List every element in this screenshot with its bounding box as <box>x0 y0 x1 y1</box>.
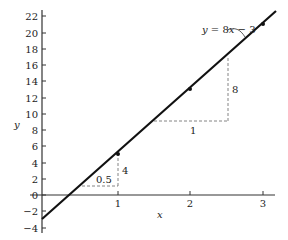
x-ticks: 123 <box>115 191 266 209</box>
slope-triangle-large: 1 8 <box>154 56 238 136</box>
small-rise-label: 4 <box>122 165 128 176</box>
large-rise-label: 8 <box>232 84 238 95</box>
y-tick-label: 4 <box>32 158 38 169</box>
x-tick-label: 1 <box>115 198 121 209</box>
point-3-21 <box>261 22 265 26</box>
y-tick-label: −2 <box>23 206 38 217</box>
x-tick-label: 2 <box>187 198 193 209</box>
y-tick-label: 2 <box>32 174 38 185</box>
y-tick-label: 20 <box>25 28 38 39</box>
line-y-8x-minus-3 <box>42 11 276 219</box>
y-tick-label: 10 <box>25 109 38 120</box>
y-tick-label: 12 <box>25 93 38 104</box>
y-tick-label: 16 <box>25 60 38 71</box>
slope-triangle-small: 0.5 4 <box>82 154 128 186</box>
point-2-13 <box>188 87 192 91</box>
y-tick-label: 22 <box>25 11 38 22</box>
y-tick-label: −4 <box>23 223 38 234</box>
x-axis-label: x <box>157 209 163 220</box>
y-axis-label: y <box>13 119 20 130</box>
y-tick-label: 0 <box>32 190 38 201</box>
y-tick-label: 14 <box>25 76 38 87</box>
small-run-label: 0.5 <box>96 174 112 185</box>
x-tick-label: 3 <box>260 198 266 209</box>
y-tick-label: 18 <box>25 44 38 55</box>
y-tick-label: 6 <box>32 141 38 152</box>
point-1-5 <box>116 152 120 156</box>
large-run-label: 1 <box>190 125 196 136</box>
y-tick-label: 8 <box>32 125 38 136</box>
chart-canvas: 2220181614121086420−2−4 123 0.5 4 1 8 y … <box>0 0 288 240</box>
